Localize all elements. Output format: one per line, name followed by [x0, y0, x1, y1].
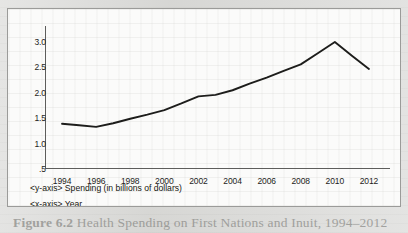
x-tick-label-2002: 2002	[189, 176, 208, 186]
y-tick-label-2.0: 2.0	[7, 88, 50, 98]
x-tick-label-2012: 2012	[360, 176, 379, 186]
y-axis-caption: <y-axis> Spending (in billions of dollar…	[30, 181, 182, 197]
chart-panel: 3.02.52.01.51.0.5 1994199619982000200220…	[7, 8, 401, 207]
x-tick-label-2006: 2006	[257, 176, 276, 186]
x-tick-label-2010: 2010	[326, 176, 345, 186]
y-tick-label-1.0: 1.0	[7, 139, 50, 149]
figure-caption: Figure 6.2 Health Spending on First Nati…	[13, 215, 405, 231]
x-tick-label-2004: 2004	[223, 176, 242, 186]
y-tick-label-2.5: 2.5	[7, 62, 50, 72]
axis-caption-block: <y-axis> Spending (in billions of dollar…	[30, 181, 182, 207]
series-polyline	[62, 42, 369, 127]
plot-area: 3.02.52.01.51.0.5 1994199619982000200220…	[45, 26, 393, 174]
y-tick-label-1.5: 1.5	[7, 113, 50, 123]
x-tick-label-2008: 2008	[291, 176, 310, 186]
figure-caption-label: Figure 6.2	[13, 215, 73, 230]
x-axis-caption: <x-axis> Year	[30, 197, 182, 207]
y-tick-label-3.0: 3.0	[7, 37, 50, 47]
line-series-health-spending	[45, 26, 393, 174]
y-tick-label-.5: .5	[7, 164, 50, 174]
figure-caption-text: Health Spending on First Nations and Inu…	[77, 215, 388, 230]
